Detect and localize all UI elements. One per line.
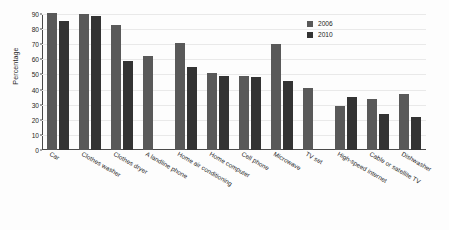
y-tick-label: 60 (32, 56, 39, 63)
chart-legend: 20062010 (307, 19, 333, 41)
bar (303, 88, 314, 150)
y-axis-title: Percentage (12, 26, 20, 106)
y-tick-label: 80 (32, 26, 39, 33)
bar-group (143, 14, 166, 150)
bar-group (399, 14, 422, 150)
x-tick-label: TV set (304, 150, 324, 165)
bar (379, 114, 390, 150)
bar (111, 25, 122, 150)
y-tick-mark (40, 104, 42, 105)
y-tick-mark (40, 44, 42, 45)
y-tick-mark (40, 89, 42, 90)
y-tick-label: 30 (32, 101, 39, 108)
bar (367, 99, 378, 150)
x-axis-labels: CarClothes washerClothes dryerA landline… (42, 150, 426, 228)
bar (335, 106, 346, 150)
y-tick-label: 70 (32, 41, 39, 48)
y-tick-mark (40, 74, 42, 75)
bar-group (271, 14, 294, 150)
legend-item[interactable]: 2006 (307, 19, 333, 29)
y-tick-mark (40, 59, 42, 60)
bar (271, 44, 282, 150)
bar (251, 77, 262, 150)
x-tick-label: Car (48, 150, 60, 161)
bar (411, 117, 422, 150)
legend-swatch-icon (307, 21, 313, 27)
bar (143, 56, 154, 150)
bar-group (335, 14, 358, 150)
y-tick-label: 90 (32, 11, 39, 18)
y-tick-mark (40, 134, 42, 135)
bar (79, 14, 90, 150)
bar (123, 61, 134, 150)
bar (207, 73, 218, 150)
bar (399, 94, 410, 150)
y-tick-label: 20 (32, 116, 39, 123)
bar-group (79, 14, 102, 150)
y-tick-label: 50 (32, 71, 39, 78)
x-tick-label: Home air conditioning (176, 150, 233, 187)
y-tick-label: 0 (35, 147, 39, 154)
bar (239, 76, 250, 150)
bar (47, 13, 58, 151)
legend-item[interactable]: 2010 (307, 30, 333, 40)
bar (91, 16, 102, 150)
legend-label: 2006 (318, 21, 333, 28)
y-axis-line (42, 14, 43, 150)
legend-swatch-icon (307, 32, 313, 38)
bar (219, 76, 230, 150)
bar-group (175, 14, 198, 150)
y-tick-mark (40, 119, 42, 120)
y-tick-mark (40, 29, 42, 30)
bar-group (111, 14, 134, 150)
bar (175, 43, 186, 150)
bar (347, 97, 358, 150)
y-tick-mark (40, 14, 42, 15)
bar (187, 67, 198, 150)
bar-group (47, 14, 70, 150)
legend-label: 2010 (318, 32, 333, 39)
bar-group (207, 14, 230, 150)
bar (283, 81, 294, 151)
bar (59, 21, 70, 150)
x-tick-label: Microwave (272, 150, 302, 171)
plot-area: 0102030405060708090 (42, 14, 426, 150)
y-tick-label: 10 (32, 131, 39, 138)
bar-group (239, 14, 262, 150)
bar-group (367, 14, 390, 150)
y-tick-label: 40 (32, 86, 39, 93)
bar-chart: Percentage 0102030405060708090 CarClothe… (0, 0, 449, 230)
